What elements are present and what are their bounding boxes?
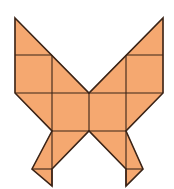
right-upper-square (126, 55, 163, 93)
left-upper-square (15, 55, 52, 93)
butterfly-svg (0, 0, 174, 189)
butterfly-figure: Tangram-style butterfly made of squares … (0, 0, 174, 189)
center-left-square (52, 93, 89, 131)
center-right-square (89, 93, 126, 131)
